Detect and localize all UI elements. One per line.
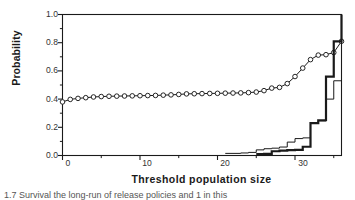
figure-caption-text: 1.7 Survival the long-run of release pol… [0,191,355,200]
figure-caption-clipped: 1.7 Survival the long-run of release pol… [0,191,355,200]
x-tick-label-30: 30 [288,158,318,168]
y-tick-label-0.2: 0.2 [28,122,58,132]
data-series-group [60,15,344,155]
x-tick-label-0: 0 [53,158,83,168]
figure-panel: Probability 1.0 0.8 0.6 0.4 0.2 0.0 0 10… [0,0,355,200]
x-axis-title: Threshold population size [62,173,341,185]
y-axis-title: Probability [10,8,22,108]
y-tick-label-0.8: 0.8 [28,37,58,47]
y-tick-label-0.4: 0.4 [28,94,58,104]
x-tick-label-10: 10 [132,158,162,168]
y-tick-label-0.6: 0.6 [28,65,58,75]
x-tick-label-20: 20 [210,158,240,168]
y-tick-label-1.0: 1.0 [28,9,58,19]
